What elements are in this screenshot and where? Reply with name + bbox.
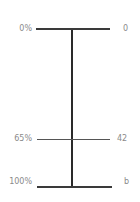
bottom-tick-line <box>37 186 112 188</box>
top-value-label: 0 <box>123 24 128 34</box>
top-percent-label: 0% <box>0 24 32 34</box>
middle-tick-line <box>37 139 110 140</box>
bottom-percent-label: 100% <box>0 177 32 187</box>
middle-value-label: 42 <box>117 134 127 144</box>
middle-percent-label: 65% <box>0 134 32 144</box>
vertical-axis-line <box>71 28 73 187</box>
top-tick-line <box>36 28 110 30</box>
bottom-value-label: b <box>124 177 129 187</box>
proportion-scale-diagram: 0% 0 65% 42 100% b <box>0 0 140 202</box>
